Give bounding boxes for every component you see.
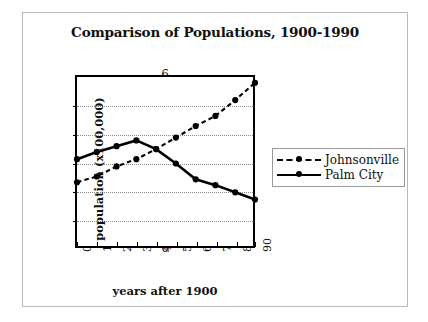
data-point bbox=[252, 80, 258, 86]
data-point bbox=[212, 113, 218, 119]
data-point bbox=[113, 143, 119, 149]
data-point bbox=[133, 137, 139, 143]
data-point bbox=[193, 123, 199, 129]
data-point bbox=[173, 160, 179, 166]
x-axis-title: years after 1900 bbox=[75, 284, 255, 298]
data-point bbox=[113, 163, 119, 169]
legend-key-dashed-icon bbox=[277, 153, 321, 166]
legend-key-solid-icon bbox=[277, 168, 321, 181]
data-point bbox=[74, 179, 80, 185]
data-point bbox=[232, 189, 238, 195]
data-point bbox=[173, 134, 179, 140]
data-point bbox=[212, 182, 218, 188]
legend-label-johnsonville: Johnsonville bbox=[325, 153, 399, 167]
data-point bbox=[74, 156, 80, 162]
legend-item-palm-city[interactable]: Palm City bbox=[277, 167, 399, 182]
legend-label-palm-city: Palm City bbox=[325, 168, 383, 182]
chart-legend: Johnsonville Palm City bbox=[272, 148, 405, 187]
data-point bbox=[193, 176, 199, 182]
legend-item-johnsonville[interactable]: Johnsonville bbox=[277, 152, 399, 167]
data-point bbox=[252, 196, 258, 202]
data-point bbox=[153, 146, 159, 152]
x-tick-label-90: 90 bbox=[261, 238, 274, 252]
data-point bbox=[133, 156, 139, 162]
y-axis-title: population (x100,000) bbox=[92, 97, 106, 240]
page-root: Comparison of Populations, 1900-1990 6 5… bbox=[0, 0, 428, 322]
data-point bbox=[232, 97, 238, 103]
